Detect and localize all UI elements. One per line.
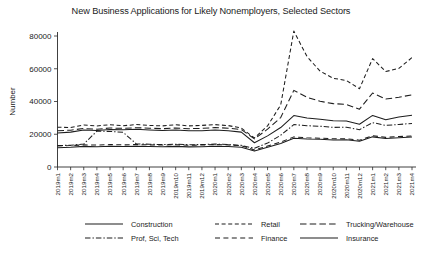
legend-label-prof-sci-tech[interactable]: Prof, Sci, Tech bbox=[131, 234, 179, 243]
legend-label-construction[interactable]: Construction bbox=[131, 220, 173, 229]
legend-label-finance[interactable]: Finance bbox=[261, 234, 287, 243]
legend-label-insurance[interactable]: Insurance bbox=[346, 234, 378, 243]
legend-label-retail[interactable]: Retail bbox=[261, 220, 280, 229]
legend-label-trucking-warehouse[interactable]: Trucking/Warehouse bbox=[346, 220, 414, 229]
chart-figure: New Business Applications for Likely Non… bbox=[0, 0, 422, 254]
chart-legend: ConstructionRetailTrucking/WarehouseProf… bbox=[0, 0, 422, 254]
